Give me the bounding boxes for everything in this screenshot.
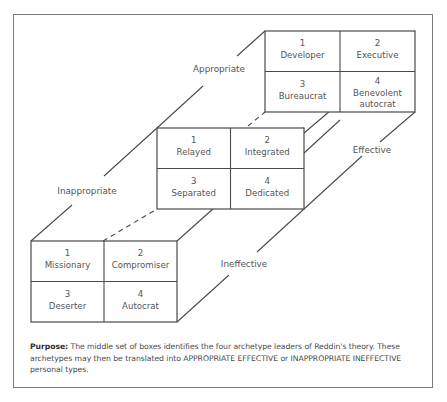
axis-label-effective: Effective	[353, 145, 391, 155]
cell-label: Deserter	[49, 301, 87, 311]
axis-label-inappropriate: Inappropriate	[57, 186, 116, 196]
caption-label: Purpose:	[30, 342, 68, 351]
cell-number: 1	[65, 248, 70, 258]
cell-label: Integrated	[245, 147, 290, 157]
grid-middle: 1Relayed2Integrated3Separated4Dedicated	[157, 128, 304, 209]
cell-label: Executive	[357, 50, 399, 60]
cell-label: Benevolent	[353, 88, 402, 98]
edge-top-left-upper-a	[157, 86, 203, 128]
cell-number: 2	[375, 38, 380, 48]
grid-front: 1Missionary2Compromiser3Deserter4Autocra…	[31, 241, 177, 322]
cell-number: 1	[300, 38, 305, 48]
cell-number: 4	[138, 289, 143, 299]
grid-top: 1Developer2Executive3Bureaucrat4Benevole…	[265, 31, 415, 112]
cell-number: 4	[375, 76, 380, 86]
edge-top-left-upper-b	[237, 31, 265, 56]
cell-label: Dedicated	[245, 188, 289, 198]
axis-label-appropriate: Appropriate	[193, 64, 245, 74]
cell-label: Autocrat	[122, 301, 159, 311]
cell-number: 1	[191, 135, 196, 145]
edge-top-left-lower	[31, 205, 72, 241]
edge-bottom-right-upper-a	[304, 156, 362, 209]
edge-bottom-right-lower	[177, 275, 229, 322]
caption-text: The middle set of boxes identifies the f…	[30, 342, 401, 374]
edge-bottom-right-mid	[257, 209, 304, 252]
axis-label-ineffective: Ineffective	[221, 259, 267, 269]
cell-number: 3	[65, 289, 70, 299]
cell-number: 3	[300, 79, 305, 89]
cell-number: 3	[191, 176, 196, 186]
cell-number: 4	[265, 176, 270, 186]
cell-label: Relayed	[177, 147, 211, 157]
cell-label: Compromiser	[112, 260, 170, 270]
edge-hidden-upper	[248, 112, 265, 126]
cell-label: autocrat	[359, 99, 396, 109]
cell-number: 2	[265, 135, 270, 145]
cell-label: Developer	[280, 50, 325, 60]
edge-bottom-right-upper-b	[380, 112, 415, 142]
edge-top-left-mid	[104, 128, 157, 176]
cell-label: Bureaucrat	[279, 91, 327, 101]
cell-label: Separated	[172, 188, 216, 198]
edge-hidden-lower	[103, 209, 157, 241]
cell-label: Missionary	[45, 260, 91, 270]
caption: Purpose: The middle set of boxes identif…	[30, 341, 422, 376]
cell-number: 2	[138, 248, 143, 258]
